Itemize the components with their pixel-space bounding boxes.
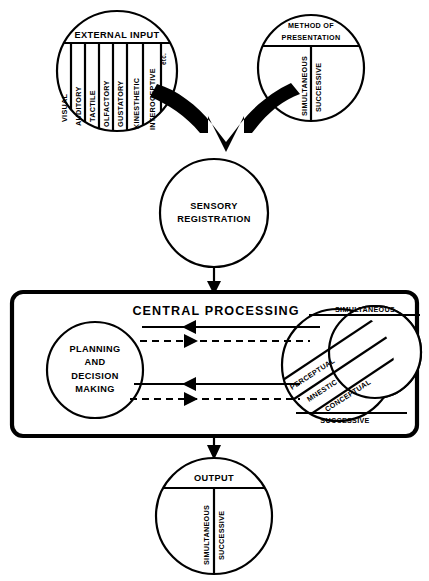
output-mode-successive: SUCCESSIVE — [217, 511, 226, 560]
sensory-registration-label-line1: SENSORY — [190, 201, 237, 211]
external-input-node: EXTERNAL INPUT VISUAL AUDITORY TACTILE O… — [57, 11, 177, 131]
external-input-channel-auditory: AUDITORY — [74, 86, 83, 126]
planning-label-line4: MAKING — [75, 384, 115, 394]
coding-circle-right-outline — [329, 306, 421, 398]
coding-band-simultaneous: SIMULTANEOUS — [335, 305, 395, 314]
sensory-registration-label-line2: REGISTRATION — [177, 214, 251, 224]
planning-decision-circle — [47, 322, 143, 418]
central-processing-box: CENTRAL PROCESSING PLANNING AND DECISION… — [12, 292, 421, 436]
external-input-title: EXTERNAL INPUT — [74, 30, 159, 40]
planning-label-line1: PLANNING — [69, 344, 120, 354]
connector-central-to-output — [207, 436, 221, 460]
output-node: OUTPUT SIMULTANEOUS SUCCESSIVE — [156, 458, 272, 574]
planning-label-line2: AND — [84, 357, 105, 367]
output-title: OUTPUT — [194, 473, 234, 483]
information-processing-diagram: EXTERNAL INPUT VISUAL AUDITORY TACTILE O… — [0, 0, 429, 581]
method-of-presentation-mode-simultaneous: SIMULTANEOUS — [300, 56, 309, 116]
sensory-registration-node: SENSORY REGISTRATION — [160, 159, 268, 267]
external-input-etc-label: etc. — [160, 53, 167, 65]
external-input-channel-gustatory: GUSTATORY — [116, 81, 125, 127]
sensory-registration-circle — [160, 159, 268, 267]
planning-decision-node: PLANNING AND DECISION MAKING — [47, 322, 143, 418]
planning-label-line3: DECISION — [71, 371, 119, 381]
coding-band-successive: SUCCESSIVE — [320, 416, 369, 425]
external-input-channel-visual: VISUAL — [60, 94, 69, 122]
external-input-channel-tactile: TACTILE — [88, 90, 97, 122]
central-processing-title: CENTRAL PROCESSING — [132, 304, 299, 318]
method-of-presentation-title-line2: PRESENTATION — [282, 33, 341, 42]
output-mode-simultaneous: SIMULTANEOUS — [202, 505, 211, 565]
external-input-channel-olfactory: OLFACTORY — [102, 80, 111, 127]
method-of-presentation-mode-successive: SUCCESSIVE — [314, 63, 323, 112]
input-funnel-arrow — [150, 83, 300, 152]
external-input-channel-kinesthetic: KINESTHETIC — [132, 78, 141, 129]
method-of-presentation-title-line1: METHOD OF — [288, 21, 334, 30]
